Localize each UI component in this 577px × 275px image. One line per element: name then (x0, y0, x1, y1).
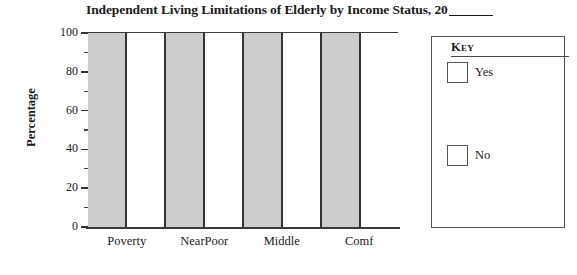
y-tick-label: 40 (42, 141, 78, 156)
chart-title: Independent Living Limitations of Elderl… (86, 2, 556, 18)
legend-swatch-yes (447, 62, 468, 83)
y-tick-label: 80 (42, 64, 78, 79)
y-axis-title: Percentage (24, 73, 39, 163)
chart-title-text: Independent Living Limitations of Elderl… (86, 2, 448, 17)
bar-middle-yes (244, 33, 283, 227)
bar-nearpoor-yes (166, 33, 205, 227)
y-tick-major (81, 187, 88, 189)
x-tick-label-comf: Comf (314, 234, 404, 249)
bar-middle-no (283, 33, 322, 227)
bar-comf-no (361, 33, 398, 227)
legend-title-underline (451, 56, 569, 57)
x-tick-label-middle: Middle (237, 234, 327, 249)
bar-comf-yes (322, 33, 361, 227)
y-tick-major (81, 32, 88, 34)
y-tick-label: 60 (42, 103, 78, 118)
bar-poverty-yes (88, 33, 127, 227)
chart-canvas: Independent Living Limitations of Elderl… (0, 0, 577, 275)
y-tick-major (81, 71, 88, 73)
bar-poverty-no (127, 33, 166, 227)
legend-title: Key (451, 40, 474, 55)
x-tick-label-nearpoor: NearPoor (159, 234, 249, 249)
y-tick-major (81, 226, 88, 228)
y-tick-label: 0 (42, 219, 78, 234)
legend-swatch-no (447, 145, 468, 166)
legend-entry-no: No (447, 145, 490, 166)
y-tick-major (81, 149, 88, 151)
bar-group (88, 33, 398, 227)
legend-entry-yes: Yes (447, 62, 493, 83)
plot-area (88, 33, 398, 227)
x-tick-label-poverty: Poverty (82, 234, 172, 249)
y-tick-label: 20 (42, 180, 78, 195)
x-axis-line (86, 227, 400, 229)
y-tick-major (81, 110, 88, 112)
legend-label-no: No (475, 148, 490, 163)
legend-label-yes: Yes (475, 65, 493, 80)
title-year-blank (449, 15, 493, 16)
bar-nearpoor-no (205, 33, 244, 227)
y-tick-label: 100 (42, 25, 78, 40)
